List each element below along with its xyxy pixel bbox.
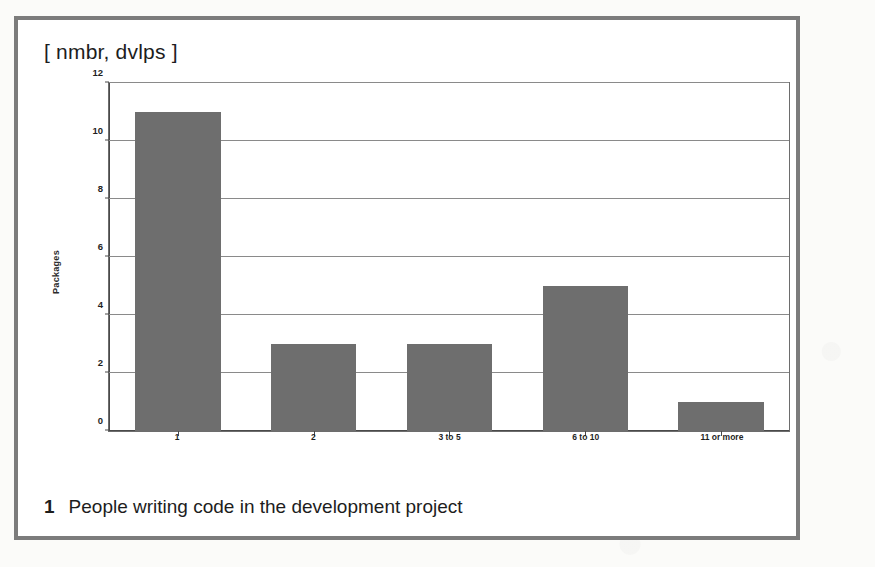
- y-tick-label: 10: [92, 125, 103, 136]
- y-tick-mark: [105, 256, 109, 257]
- bar-chart: Packages 024681012 123 to 56 to 1011 or …: [80, 82, 790, 462]
- y-axis-title: Packages: [51, 250, 61, 294]
- bar: [407, 344, 493, 431]
- bar-slot: [382, 83, 518, 431]
- bar: [271, 344, 357, 431]
- bar-slot: [246, 83, 382, 431]
- y-tick-mark: [105, 372, 109, 373]
- x-axis-labels: 123 to 56 to 1011 or more: [109, 432, 790, 454]
- y-tick-mark: [105, 314, 109, 315]
- figure-frame: [ nmbr, dvlps ] Packages 024681012 123 t…: [14, 16, 800, 540]
- plot-area: 024681012: [108, 82, 790, 432]
- x-tick-label: 6 to 10: [518, 432, 654, 454]
- bar: [678, 402, 764, 431]
- y-tick-label: 6: [98, 241, 103, 252]
- bar: [543, 286, 629, 431]
- y-tick-mark: [105, 430, 109, 431]
- bar-slot: [653, 83, 789, 431]
- y-tick-mark: [105, 82, 109, 83]
- figure-header-label: [ nmbr, dvlps ]: [44, 40, 178, 64]
- figure-caption-text: People writing code in the development p…: [69, 496, 463, 518]
- figure-caption: 1 People writing code in the development…: [44, 496, 463, 518]
- bar: [135, 112, 221, 431]
- bars-container: [110, 83, 789, 431]
- bar-slot: [517, 83, 653, 431]
- x-tick-label: 2: [245, 432, 381, 454]
- y-tick-label: 12: [92, 67, 103, 78]
- x-tick-label: 1: [109, 432, 245, 454]
- y-tick-mark: [105, 198, 109, 199]
- y-tick-label: 2: [98, 357, 103, 368]
- y-tick-label: 8: [98, 183, 103, 194]
- y-tick-label: 0: [98, 415, 103, 426]
- x-tick-label: 11 or more: [654, 432, 790, 454]
- figure-caption-number: 1: [44, 496, 55, 518]
- x-tick-label: 3 to 5: [381, 432, 517, 454]
- bar-slot: [110, 83, 246, 431]
- y-tick-mark: [105, 140, 109, 141]
- y-tick-label: 4: [98, 299, 103, 310]
